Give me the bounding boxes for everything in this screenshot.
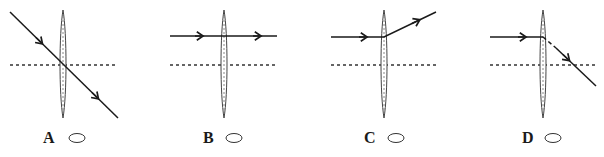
option-c-diagram: C [331, 10, 439, 146]
ray-arrow-icon [36, 38, 41, 43]
option-label: C [364, 129, 376, 146]
option-label: B [203, 129, 214, 146]
answer-radio-a[interactable] [69, 134, 85, 143]
convex-lens-icon [540, 10, 546, 118]
answer-radio-b[interactable] [226, 134, 242, 143]
option-label: A [43, 129, 55, 146]
convex-lens-icon [221, 10, 227, 118]
convex-lens-icon [381, 10, 387, 118]
ray-arrow-icon [412, 21, 418, 24]
option-d-diagram: D [490, 10, 598, 146]
ray-arrow-icon [563, 55, 568, 60]
answer-radio-c[interactable] [388, 134, 404, 143]
lens-ray-diagrams: A B C D [0, 0, 604, 157]
option-b-diagram: B [170, 10, 278, 146]
answer-radio-d[interactable] [545, 134, 561, 143]
ray-arrow-icon [92, 93, 97, 98]
light-ray [556, 48, 596, 86]
option-a-diagram: A [10, 10, 118, 146]
option-label: D [522, 129, 534, 146]
